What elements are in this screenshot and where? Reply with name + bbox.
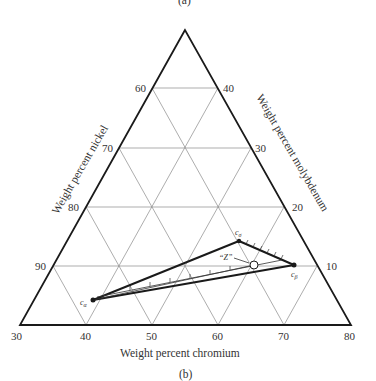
right-tick-20: 20 — [292, 201, 304, 213]
ternary-diagram: cα cσ cβ “Z” 60 70 80 90 40 30 20 10 30 … — [0, 0, 376, 381]
c-beta-label: cβ — [291, 270, 298, 280]
right-tick-40: 40 — [223, 82, 235, 94]
left-tick-70: 70 — [102, 142, 114, 154]
z-point — [250, 261, 258, 269]
bottom-tick-30: 30 — [11, 330, 23, 342]
left-tick-80: 80 — [68, 201, 80, 213]
nickel-axis-label: Weight percent nickel — [49, 123, 111, 217]
left-tick-90: 90 — [35, 260, 47, 272]
c-sigma-label: cσ — [235, 228, 243, 238]
c-alpha-point — [91, 298, 96, 303]
bottom-tick-80: 80 — [344, 330, 356, 342]
bottom-tick-60: 60 — [212, 330, 224, 342]
c-alpha-label: cα — [80, 298, 88, 308]
caption-b: (b) — [179, 368, 193, 381]
z-label: “Z” — [219, 253, 233, 262]
right-tick-10: 10 — [326, 260, 338, 272]
bottom-tick-40: 40 — [80, 330, 92, 342]
chromium-axis-label: Weight percent chromium — [120, 347, 240, 360]
c-beta-point — [292, 263, 297, 268]
right-tick-30: 30 — [255, 142, 267, 154]
bottom-tick-70: 70 — [278, 330, 290, 342]
left-tick-60: 60 — [135, 82, 147, 94]
caption-a: (a) — [178, 0, 191, 7]
c-sigma-point — [237, 239, 241, 243]
bottom-tick-50: 50 — [146, 330, 158, 342]
